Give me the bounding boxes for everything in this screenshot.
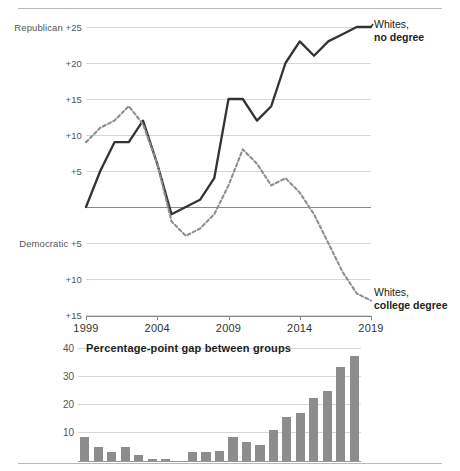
line-chart: Republican +25+20+15+10+5Democratic +5+1…: [0, 12, 460, 328]
figure-root: Republican +25+20+15+10+5Democratic +5+1…: [0, 0, 460, 471]
bar-item: [336, 367, 345, 462]
series-label-whites-college-degree-line2: college degree: [374, 299, 448, 312]
bar-chart-bars: [78, 342, 361, 464]
bar-item: [269, 430, 278, 462]
line-chart-series-paths: [0, 12, 460, 328]
series-label-whites-college-degree-line1: Whites,: [374, 286, 448, 299]
bar-y-tick-label: 20: [63, 399, 74, 410]
bar-item: [255, 445, 264, 462]
series-label-whites-no-degree-line2: no degree: [374, 31, 424, 44]
callout-connector-top: [371, 24, 373, 27]
series-label-whites-college-degree: Whites, college degree: [374, 286, 448, 311]
bar-item: [242, 442, 251, 462]
bar-chart-baseline: [78, 461, 361, 463]
bar-chart-title: Percentage-point gap between groups: [86, 342, 291, 354]
bar-chart-y-axis-labels: 10203040: [0, 338, 74, 464]
bar-item: [350, 356, 359, 462]
series-label-whites-no-degree-line1: Whites,: [374, 18, 424, 31]
bar-item: [323, 391, 332, 462]
bar-chart: 10203040 Percentage-point gap between gr…: [0, 338, 460, 464]
bar-y-tick-label: 40: [63, 343, 74, 354]
line-series-whites-college-degree: [86, 106, 371, 300]
bar-item: [296, 413, 305, 462]
bar-y-tick-label: 10: [63, 427, 74, 438]
bar-item: [309, 398, 318, 462]
top-divider-rule: [18, 8, 442, 9]
series-label-whites-no-degree: Whites, no degree: [374, 18, 424, 43]
bottom-divider-rule: [18, 463, 442, 464]
bar-item: [228, 437, 237, 462]
bar-item: [80, 437, 89, 462]
bar-y-tick-label: 30: [63, 371, 74, 382]
bar-item: [282, 417, 291, 462]
